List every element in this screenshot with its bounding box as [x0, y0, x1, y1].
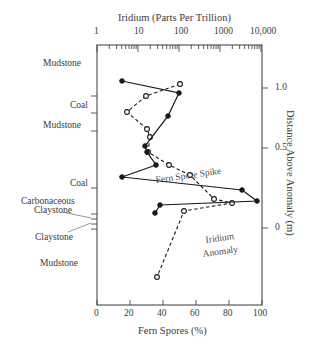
series-iridium-line	[127, 84, 232, 277]
iridium-fern-spore-chart: Iridium (Parts Per Trillion) 1 10 100 10…	[0, 0, 330, 352]
series-fern-spores-markers	[120, 79, 260, 216]
series-fern-spores-line	[122, 81, 257, 213]
lithology-leader-lines	[62, 212, 91, 232]
lithology-boundary-ticks	[91, 96, 97, 229]
series-iridium-markers	[125, 82, 235, 280]
plot-svg	[0, 0, 330, 352]
bottom-axis-ticks	[97, 300, 262, 305]
series-fern-spores	[120, 79, 260, 216]
right-axis-ticks	[262, 88, 268, 228]
series-iridium	[125, 82, 235, 280]
top-axis-ticks	[97, 45, 261, 52]
